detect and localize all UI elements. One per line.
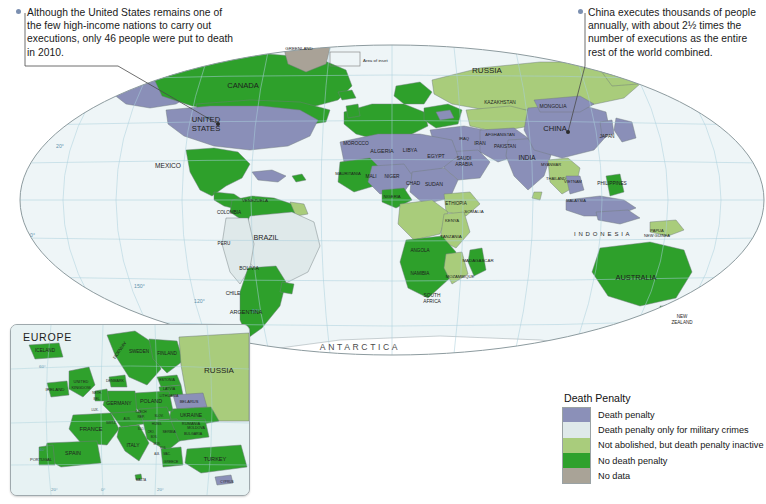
svg-text:CYPRUS: CYPRUS <box>220 480 233 484</box>
svg-text:UNITED: UNITED <box>74 379 89 384</box>
svg-text:TURKEY: TURKEY <box>204 456 227 462</box>
svg-text:150°: 150° <box>134 283 145 289</box>
svg-text:GREECE: GREECE <box>164 460 179 464</box>
svg-text:0°: 0° <box>101 487 105 492</box>
svg-text:GERMANY: GERMANY <box>106 400 132 406</box>
legend-title: Death Penalty <box>564 392 762 404</box>
svg-text:REP.: REP. <box>137 415 144 419</box>
annotation-bullet-icon <box>16 9 21 14</box>
svg-text:BEL.: BEL. <box>94 397 101 401</box>
svg-text:CZECH: CZECH <box>136 410 148 414</box>
world-map-screenshot: 150° 120° 90° 60° 30° 0° 30° 60° 90° 120… <box>0 0 766 504</box>
legend-item: No data <box>562 469 762 484</box>
svg-text:ITALY: ITALY <box>126 442 140 448</box>
callout-anchor-us <box>216 122 220 126</box>
legend-swatch <box>562 422 591 437</box>
legend-label: Not abolished, but death penalty inactiv… <box>598 440 764 450</box>
svg-text:20°: 20° <box>56 278 64 284</box>
svg-text:POLAND: POLAND <box>140 398 162 404</box>
legend-swatch <box>562 453 591 468</box>
svg-text:20°: 20° <box>56 143 64 149</box>
legend-label: No death penalty <box>598 456 667 466</box>
svg-text:LATVIA: LATVIA <box>163 387 176 391</box>
svg-text:90°: 90° <box>502 357 510 363</box>
svg-text:LITHUANIA: LITHUANIA <box>160 394 179 398</box>
inset-title: EUROPE <box>23 331 72 343</box>
legend-item: Death penalty only for military crimes <box>562 422 762 437</box>
svg-text:RUMANIA: RUMANIA <box>182 421 201 426</box>
legend-label: Death penalty only for military crimes <box>598 425 749 435</box>
svg-text:ICELAND: ICELAND <box>35 348 56 353</box>
legend-rows: Death penaltyDeath penalty only for mili… <box>562 407 762 484</box>
legend-label: No data <box>598 471 630 481</box>
svg-text:DENMARK: DENMARK <box>106 379 125 383</box>
legend-item: No death penalty <box>562 453 762 468</box>
label-antarctica: ANTARCTICA <box>320 342 400 352</box>
svg-text:CRO.: CRO. <box>148 430 155 434</box>
svg-text:SWITZ.: SWITZ. <box>106 421 116 425</box>
svg-text:0°: 0° <box>387 357 392 363</box>
svg-text:MON.: MON. <box>154 442 161 446</box>
svg-text:FINLAND: FINLAND <box>157 351 177 356</box>
svg-text:90°: 90° <box>252 308 260 314</box>
svg-text:60°: 60° <box>39 364 46 369</box>
annotation-china: China executes thousands of people annua… <box>588 6 764 59</box>
svg-text:MOLDOVA: MOLDOVA <box>187 426 205 430</box>
svg-text:30°: 30° <box>420 357 428 363</box>
svg-text:120°: 120° <box>542 357 553 363</box>
svg-text:BELARUS: BELARUS <box>180 399 199 404</box>
svg-text:SLO.: SLO. <box>138 427 145 431</box>
svg-text:UKRAINE: UKRAINE <box>180 412 203 418</box>
svg-text:SLOV.: SLOV. <box>154 414 163 418</box>
callout-anchor-cn <box>566 130 570 134</box>
svg-text:SERBIA: SERBIA <box>162 430 176 434</box>
svg-text:ALB.: ALB. <box>154 452 160 456</box>
svg-text:FRANCE: FRANCE <box>80 426 103 432</box>
svg-text:HUNG.: HUNG. <box>152 422 162 426</box>
svg-text:RUSSIA: RUSSIA <box>204 366 234 375</box>
svg-text:LUX.: LUX. <box>91 408 98 412</box>
annotation-united-states-text: Although the United States remains one o… <box>27 7 233 58</box>
legend-swatch <box>562 468 591 484</box>
svg-text:MAC.: MAC. <box>164 452 171 456</box>
annotation-china-text: China executes thousands of people annua… <box>588 7 756 58</box>
svg-text:SPAIN: SPAIN <box>65 450 81 456</box>
legend-label: Death penalty <box>598 410 655 420</box>
svg-text:20°: 20° <box>157 487 164 492</box>
legend-swatch <box>562 407 591 423</box>
europe-inset-map: 60° 40° 20° 0° 20° ICELAND NORWAY SWEDEN… <box>10 324 250 496</box>
legend-swatch <box>562 438 591 453</box>
svg-text:BOS.: BOS. <box>151 435 158 439</box>
svg-text:ESTONIA: ESTONIA <box>159 378 175 382</box>
svg-text:NETH.: NETH. <box>92 391 102 395</box>
svg-text:KOS.: KOS. <box>160 446 166 450</box>
svg-text:120°: 120° <box>194 298 205 304</box>
svg-text:MALTA: MALTA <box>136 478 147 482</box>
legend-item: Not abolished, but death penalty inactiv… <box>562 438 762 453</box>
svg-text:40°: 40° <box>39 447 46 452</box>
svg-text:60°: 60° <box>265 357 273 363</box>
annotation-bullet-icon <box>578 9 583 14</box>
area-of-inset-label: Area of inset <box>363 58 388 63</box>
svg-text:150°: 150° <box>588 357 599 363</box>
annotation-united-states: Although the United States remains one o… <box>27 6 239 59</box>
map-legend: Death Penalty Death penaltyDeath penalty… <box>562 392 762 484</box>
svg-text:AUS.: AUS. <box>123 417 130 421</box>
svg-text:60°: 60° <box>460 357 468 363</box>
label-indonesia: I N D O N E S I A <box>574 231 630 237</box>
svg-text:IRELAND: IRELAND <box>45 387 64 392</box>
svg-text:SWEDEN: SWEDEN <box>129 349 149 354</box>
svg-text:30°: 30° <box>332 357 340 363</box>
svg-text:20°: 20° <box>51 487 58 492</box>
svg-text:BULGARIA: BULGARIA <box>184 432 203 436</box>
svg-text:PORTUGAL: PORTUGAL <box>30 457 53 462</box>
legend-item: Death penalty <box>562 407 762 422</box>
svg-text:KINGDOM: KINGDOM <box>71 385 90 390</box>
